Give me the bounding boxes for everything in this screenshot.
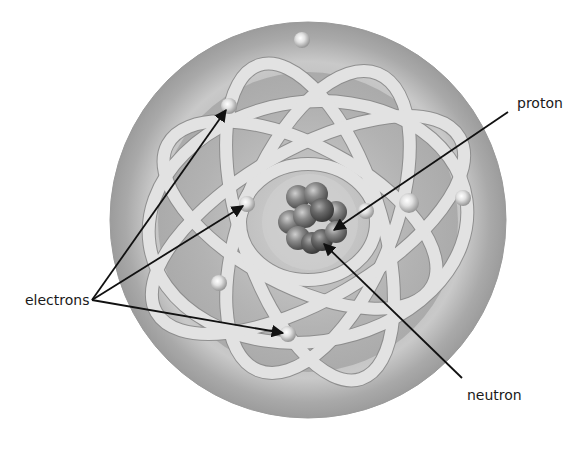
electrons-label: electrons [25, 292, 89, 308]
electron [280, 326, 296, 342]
atom-diagram: electrons proton neutron [0, 0, 575, 449]
electron [455, 190, 471, 206]
electron [211, 275, 227, 291]
neutron-label: neutron [467, 387, 522, 403]
proton-label: proton [517, 95, 563, 111]
electron [221, 98, 237, 114]
electron [239, 196, 255, 212]
electron [399, 193, 419, 213]
nucleus-particle [310, 198, 334, 222]
electron [294, 32, 310, 48]
atom-illustration [0, 0, 575, 449]
